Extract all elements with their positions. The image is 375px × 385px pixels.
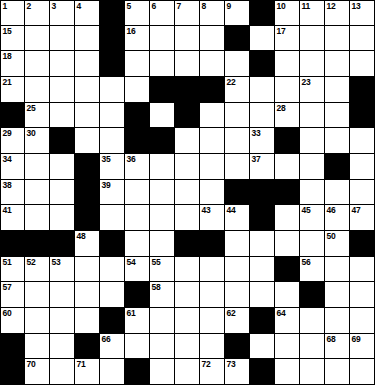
crossword-open-cell[interactable]: 46 (325, 205, 350, 231)
crossword-open-cell[interactable] (125, 231, 150, 257)
crossword-open-cell[interactable]: 66 (100, 334, 125, 360)
crossword-open-cell[interactable]: 70 (25, 359, 50, 385)
crossword-open-cell[interactable]: 6 (150, 0, 175, 26)
crossword-open-cell[interactable]: 37 (250, 154, 275, 180)
crossword-open-cell[interactable] (150, 231, 175, 257)
crossword-open-cell[interactable] (275, 231, 300, 257)
crossword-open-cell[interactable] (200, 282, 225, 308)
crossword-open-cell[interactable]: 62 (225, 308, 250, 334)
crossword-open-cell[interactable] (125, 77, 150, 103)
crossword-open-cell[interactable] (300, 308, 325, 334)
crossword-open-cell[interactable] (350, 257, 375, 283)
crossword-open-cell[interactable]: 47 (350, 205, 375, 231)
crossword-open-cell[interactable] (175, 51, 200, 77)
crossword-open-cell[interactable] (200, 180, 225, 206)
crossword-open-cell[interactable] (250, 103, 275, 129)
crossword-open-cell[interactable]: 57 (0, 282, 25, 308)
crossword-open-cell[interactable] (75, 282, 100, 308)
crossword-open-cell[interactable]: 51 (0, 257, 25, 283)
crossword-open-cell[interactable]: 44 (225, 205, 250, 231)
crossword-open-cell[interactable] (325, 128, 350, 154)
crossword-open-cell[interactable] (100, 205, 125, 231)
crossword-open-cell[interactable] (150, 154, 175, 180)
crossword-open-cell[interactable] (75, 128, 100, 154)
crossword-open-cell[interactable] (150, 359, 175, 385)
crossword-open-cell[interactable] (150, 103, 175, 129)
crossword-open-cell[interactable] (325, 103, 350, 129)
crossword-open-cell[interactable] (75, 257, 100, 283)
crossword-open-cell[interactable]: 71 (75, 359, 100, 385)
crossword-open-cell[interactable] (175, 26, 200, 52)
crossword-open-cell[interactable] (175, 282, 200, 308)
crossword-open-cell[interactable] (225, 103, 250, 129)
crossword-open-cell[interactable] (225, 257, 250, 283)
crossword-open-cell[interactable] (200, 154, 225, 180)
crossword-open-cell[interactable] (25, 205, 50, 231)
crossword-open-cell[interactable]: 30 (25, 128, 50, 154)
crossword-open-cell[interactable] (250, 257, 275, 283)
crossword-open-cell[interactable] (50, 308, 75, 334)
crossword-open-cell[interactable] (175, 205, 200, 231)
crossword-open-cell[interactable] (125, 205, 150, 231)
crossword-open-cell[interactable] (275, 282, 300, 308)
crossword-open-cell[interactable]: 41 (0, 205, 25, 231)
crossword-open-cell[interactable]: 9 (225, 0, 250, 26)
crossword-open-cell[interactable] (150, 334, 175, 360)
crossword-open-cell[interactable] (300, 103, 325, 129)
crossword-open-cell[interactable] (275, 154, 300, 180)
crossword-open-cell[interactable] (350, 180, 375, 206)
crossword-open-cell[interactable] (350, 128, 375, 154)
crossword-open-cell[interactable]: 22 (225, 77, 250, 103)
crossword-open-cell[interactable]: 11 (300, 0, 325, 26)
crossword-open-cell[interactable]: 2 (25, 0, 50, 26)
crossword-open-cell[interactable] (25, 51, 50, 77)
crossword-open-cell[interactable] (350, 308, 375, 334)
crossword-open-cell[interactable] (125, 334, 150, 360)
crossword-open-cell[interactable]: 29 (0, 128, 25, 154)
crossword-open-cell[interactable]: 48 (75, 231, 100, 257)
crossword-open-cell[interactable]: 54 (125, 257, 150, 283)
crossword-open-cell[interactable] (100, 128, 125, 154)
crossword-open-cell[interactable] (175, 154, 200, 180)
crossword-open-cell[interactable]: 7 (175, 0, 200, 26)
crossword-open-cell[interactable] (300, 154, 325, 180)
crossword-open-cell[interactable] (325, 282, 350, 308)
crossword-open-cell[interactable]: 73 (225, 359, 250, 385)
crossword-open-cell[interactable] (75, 51, 100, 77)
crossword-open-cell[interactable] (300, 51, 325, 77)
crossword-open-cell[interactable]: 60 (0, 308, 25, 334)
crossword-open-cell[interactable]: 23 (300, 77, 325, 103)
crossword-open-cell[interactable] (250, 334, 275, 360)
crossword-open-cell[interactable]: 58 (150, 282, 175, 308)
crossword-open-cell[interactable] (300, 180, 325, 206)
crossword-open-cell[interactable] (25, 308, 50, 334)
crossword-open-cell[interactable] (150, 51, 175, 77)
crossword-open-cell[interactable] (200, 257, 225, 283)
crossword-open-cell[interactable] (100, 257, 125, 283)
crossword-open-cell[interactable] (350, 154, 375, 180)
crossword-open-cell[interactable]: 72 (200, 359, 225, 385)
crossword-open-cell[interactable] (300, 359, 325, 385)
crossword-open-cell[interactable] (275, 205, 300, 231)
crossword-open-cell[interactable] (100, 77, 125, 103)
crossword-open-cell[interactable] (300, 26, 325, 52)
crossword-open-cell[interactable]: 56 (300, 257, 325, 283)
crossword-open-cell[interactable]: 39 (100, 180, 125, 206)
crossword-open-cell[interactable] (350, 26, 375, 52)
crossword-open-cell[interactable] (350, 51, 375, 77)
crossword-open-cell[interactable]: 34 (0, 154, 25, 180)
crossword-open-cell[interactable] (175, 359, 200, 385)
crossword-open-cell[interactable]: 45 (300, 205, 325, 231)
crossword-open-cell[interactable]: 8 (200, 0, 225, 26)
crossword-open-cell[interactable]: 18 (0, 51, 25, 77)
crossword-open-cell[interactable] (200, 334, 225, 360)
crossword-open-cell[interactable] (25, 282, 50, 308)
crossword-open-cell[interactable] (250, 26, 275, 52)
crossword-open-cell[interactable]: 3 (50, 0, 75, 26)
crossword-open-cell[interactable]: 28 (275, 103, 300, 129)
crossword-open-cell[interactable] (150, 308, 175, 334)
crossword-open-cell[interactable] (200, 128, 225, 154)
crossword-open-cell[interactable]: 61 (125, 308, 150, 334)
crossword-open-cell[interactable] (200, 51, 225, 77)
crossword-open-cell[interactable]: 1 (0, 0, 25, 26)
